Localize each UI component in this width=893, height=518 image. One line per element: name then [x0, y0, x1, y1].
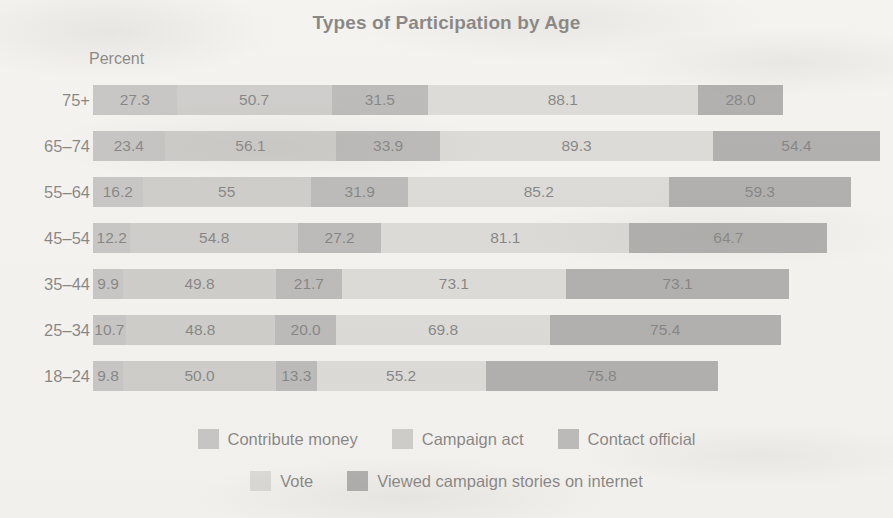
chart-legend: Contribute moneyCampaign actContact offi…	[0, 418, 893, 502]
bar-row-label: 35–44	[0, 268, 90, 300]
legend-color-swatch-icon	[558, 429, 579, 449]
bar-segment: 31.5	[332, 85, 428, 115]
bar-segment-value: 27.3	[120, 91, 150, 109]
bar-segment-value: 48.8	[185, 321, 215, 339]
bar-segment: 9.8	[93, 361, 123, 391]
bar-segment-value: 56.1	[235, 137, 265, 155]
bar-segment: 50.7	[177, 85, 332, 115]
bar-segment-value: 27.2	[325, 229, 355, 247]
bar-segment: 27.2	[298, 223, 381, 253]
bar-stack: 9.850.013.355.275.8	[93, 361, 718, 391]
bar-segment: 89.3	[440, 131, 713, 161]
bar-segment-value: 49.8	[184, 275, 214, 293]
bar-segment: 73.1	[342, 269, 566, 299]
legend-color-swatch-icon	[198, 429, 219, 449]
chart-title: Types of Participation by Age	[0, 12, 893, 34]
bar-segment: 56.1	[165, 131, 337, 161]
bar-segment-value: 31.9	[345, 183, 375, 201]
bar-row-label: 55–64	[0, 176, 90, 208]
bar-segment-value: 88.1	[548, 91, 578, 109]
bar-segment: 48.8	[126, 315, 275, 345]
bar-segment-value: 12.2	[97, 229, 127, 247]
bar-segment-value: 20.0	[291, 321, 321, 339]
bar-stack: 16.25531.985.259.3	[93, 177, 851, 207]
legend-entry[interactable]: Campaign act	[392, 429, 524, 449]
bar-segment: 55.2	[317, 361, 486, 391]
bar-row: 25–3410.748.820.069.875.4	[0, 314, 893, 346]
legend-color-swatch-icon	[392, 429, 413, 449]
bar-segment-value: 33.9	[373, 137, 403, 155]
bar-segment: 69.8	[336, 315, 550, 345]
bar-row-label: 65–74	[0, 130, 90, 162]
bar-row: 55–6416.25531.985.259.3	[0, 176, 893, 208]
bar-segment: 55	[143, 177, 311, 207]
bar-segment: 81.1	[381, 223, 629, 253]
bar-row: 75+27.350.731.588.128.0	[0, 84, 893, 116]
bar-segment-value: 55.2	[386, 367, 416, 385]
bar-segment: 12.2	[93, 223, 130, 253]
bar-row-label: 18–24	[0, 360, 90, 392]
bar-stack: 9.949.821.773.173.1	[93, 269, 789, 299]
legend-entry[interactable]: Viewed campaign stories on internet	[347, 471, 643, 491]
bar-segment: 16.2	[93, 177, 143, 207]
bar-segment-value: 89.3	[562, 137, 592, 155]
legend-label: Contribute money	[228, 430, 358, 449]
bar-segment-value: 50.7	[239, 91, 269, 109]
legend-entry[interactable]: Vote	[250, 471, 313, 491]
bar-segment-value: 31.5	[365, 91, 395, 109]
bar-segment: 31.9	[311, 177, 409, 207]
legend-row-2: VoteViewed campaign stories on internet	[0, 460, 893, 502]
bar-segment-value: 23.4	[114, 137, 144, 155]
bar-segment-value: 59.3	[745, 183, 775, 201]
bar-row-label: 75+	[0, 84, 90, 116]
bar-row: 35–449.949.821.773.173.1	[0, 268, 893, 300]
stacked-bar-plot-area: 75+27.350.731.588.128.065–7423.456.133.9…	[0, 84, 893, 402]
bar-segment-value: 9.9	[97, 275, 119, 293]
bar-row-label: 45–54	[0, 222, 90, 254]
legend-row-1: Contribute moneyCampaign actContact offi…	[0, 418, 893, 460]
bar-stack: 23.456.133.989.354.4	[93, 131, 880, 161]
axis-unit-label: Percent	[89, 50, 144, 68]
bar-segment: 27.3	[93, 85, 177, 115]
bar-segment: 75.4	[550, 315, 781, 345]
bar-segment: 33.9	[336, 131, 440, 161]
bar-segment-value: 10.7	[94, 321, 124, 339]
bar-segment: 88.1	[428, 85, 698, 115]
bar-segment-value: 28.0	[725, 91, 755, 109]
bar-segment: 85.2	[408, 177, 669, 207]
bar-segment: 10.7	[93, 315, 126, 345]
bar-row-label: 25–34	[0, 314, 90, 346]
bar-segment: 54.8	[130, 223, 298, 253]
bar-segment: 73.1	[566, 269, 790, 299]
bar-segment-value: 21.7	[294, 275, 324, 293]
bar-segment-value: 13.3	[281, 367, 311, 385]
bar-row: 45–5412.254.827.281.164.7	[0, 222, 893, 254]
bar-segment-value: 55	[218, 183, 235, 201]
legend-entry[interactable]: Contribute money	[198, 429, 358, 449]
bar-segment-value: 81.1	[490, 229, 520, 247]
bar-stack: 12.254.827.281.164.7	[93, 223, 827, 253]
bar-segment-value: 73.1	[439, 275, 469, 293]
bar-segment: 28.0	[698, 85, 784, 115]
legend-label: Vote	[280, 472, 313, 491]
legend-label: Viewed campaign stories on internet	[377, 472, 643, 491]
legend-color-swatch-icon	[250, 471, 271, 491]
bar-segment-value: 64.7	[713, 229, 743, 247]
bar-segment: 75.8	[486, 361, 718, 391]
bar-segment: 21.7	[276, 269, 342, 299]
bar-segment: 23.4	[93, 131, 165, 161]
bar-segment-value: 73.1	[662, 275, 692, 293]
bar-segment-value: 50.0	[184, 367, 214, 385]
bar-segment-value: 9.8	[97, 367, 119, 385]
bar-row: 65–7423.456.133.989.354.4	[0, 130, 893, 162]
legend-color-swatch-icon	[347, 471, 368, 491]
bar-segment-value: 54.8	[199, 229, 229, 247]
bar-segment: 20.0	[275, 315, 336, 345]
bar-segment: 64.7	[629, 223, 827, 253]
bar-segment-value: 85.2	[524, 183, 554, 201]
bar-segment: 49.8	[123, 269, 275, 299]
bar-row: 18–249.850.013.355.275.8	[0, 360, 893, 392]
bar-segment-value: 69.8	[428, 321, 458, 339]
legend-entry[interactable]: Contact official	[558, 429, 696, 449]
bar-segment: 50.0	[123, 361, 276, 391]
